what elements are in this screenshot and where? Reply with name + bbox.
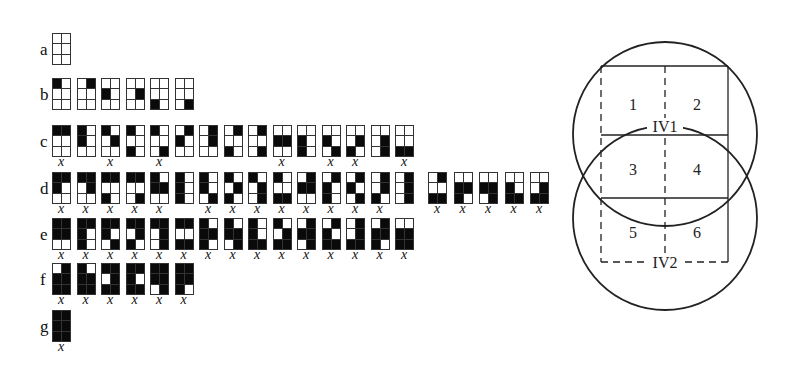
region-label-3: 3 (629, 161, 637, 178)
region-label-2: 2 (693, 96, 701, 113)
set-label-iv1: IV1 (653, 118, 678, 135)
region-label-1: 1 (629, 96, 637, 113)
set-label-iv2: IV2 (653, 254, 678, 271)
region-label-4: 4 (693, 161, 701, 178)
region-label-6: 6 (693, 224, 701, 241)
venn-diagram: 1 2 3 4 5 6 IV1 IV2 (0, 0, 788, 368)
region-label-5: 5 (629, 224, 637, 241)
